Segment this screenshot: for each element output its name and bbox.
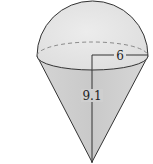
height-label: 9.1 [82, 89, 101, 103]
cone-hemisphere-diagram: 6 9.1 [0, 0, 153, 164]
apex-point [91, 161, 93, 163]
radius-label: 6 [116, 49, 124, 63]
